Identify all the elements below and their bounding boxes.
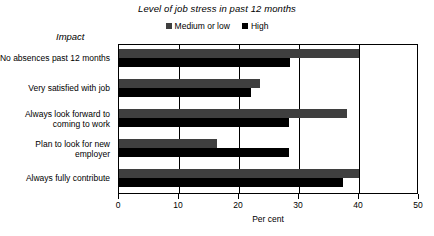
chart-legend: Medium or low High [0,21,434,31]
x-axis-tick-label-50: 50 [413,200,422,210]
bar-high [119,118,289,127]
bar-medium-or-low [119,169,359,178]
x-axis-tick-0 [118,194,119,199]
x-axis-title: Per cent [118,214,418,224]
y-axis-title: Impact [56,31,85,42]
legend-item-medium-or-low: Medium or low [166,21,230,31]
y-axis-label: Always look forward tocoming to work [0,110,110,129]
x-axis-tick-label-10: 10 [173,200,182,210]
x-axis-tick-label-30: 30 [293,200,302,210]
bar-high [119,148,289,157]
x-axis-tick-20 [238,194,239,199]
bar-medium-or-low [119,49,359,58]
y-axis-label-line: coming to work [0,119,110,129]
y-axis-label-line: employer [0,149,110,159]
x-axis-tick-50 [418,194,419,199]
y-axis-label: No absences past 12 months [0,54,110,64]
legend-swatch-medium-or-low [166,23,172,29]
y-axis-label: Very satisfied with job [0,84,110,94]
y-axis-label: Always fully contribute [0,174,110,184]
y-axis-label-line: Always fully contribute [0,174,110,184]
bar-group [119,135,417,165]
bar-group [119,45,417,75]
legend-item-high: High [242,21,268,31]
y-axis-label-line: Very satisfied with job [0,84,110,94]
y-axis-label-line: No absences past 12 months [0,54,110,64]
y-axis-labels: No absences past 12 monthsVery satisfied… [0,44,114,194]
x-axis-ticks [118,194,418,199]
plot-area [118,44,418,194]
y-axis-label: Plan to look for newemployer [0,140,110,159]
x-axis-tick-label-40: 40 [353,200,362,210]
legend-label-medium-or-low: Medium or low [175,21,230,31]
bar-medium-or-low [119,109,347,118]
legend-swatch-high [242,23,248,29]
x-axis-labels: 01020304050 [118,200,418,212]
bar-group [119,165,417,195]
x-axis-tick-label-0: 0 [116,200,121,210]
x-axis-tick-label-20: 20 [233,200,242,210]
bar-high [119,88,251,97]
bar-medium-or-low [119,139,217,148]
bar-medium-or-low [119,79,260,88]
chart-container: Level of job stress in past 12 months Me… [0,0,434,236]
x-axis-tick-10 [178,194,179,199]
chart-title: Level of job stress in past 12 months [0,3,434,14]
x-axis-tick-40 [358,194,359,199]
bar-group [119,105,417,135]
bar-group [119,75,417,105]
bar-high [119,58,290,67]
legend-label-high: High [251,21,268,31]
x-axis-tick-30 [298,194,299,199]
bar-high [119,178,343,187]
